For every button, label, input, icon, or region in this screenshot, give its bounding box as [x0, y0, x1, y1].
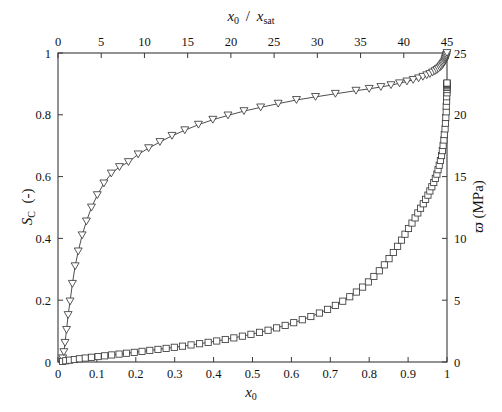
data-marker-square: [347, 294, 353, 300]
data-marker-triangle-down: [71, 263, 79, 270]
data-marker-triangle-down: [87, 204, 95, 211]
data-marker-triangle-down: [181, 127, 189, 134]
data-marker-square: [376, 268, 382, 274]
data-marker-triangle-down: [107, 170, 115, 177]
y2-tick-label: 15: [454, 170, 467, 184]
data-marker-square: [386, 256, 392, 262]
y2-tick-label: 5: [454, 294, 460, 308]
data-marker-square: [395, 243, 401, 249]
data-marker-triangle-down: [145, 145, 153, 152]
top-x-tick-label: 5: [98, 35, 104, 49]
data-marker-triangle-down: [396, 80, 404, 87]
data-marker-triangle-down: [168, 132, 176, 139]
data-marker-square: [299, 317, 305, 323]
data-marker-square: [88, 354, 94, 360]
data-marker-triangle-down: [240, 108, 248, 115]
y-tick-label: 1: [45, 47, 51, 61]
x-tick-label: 0.4: [206, 367, 222, 381]
series-2: [60, 80, 451, 365]
y2-tick-label: 10: [454, 232, 467, 246]
data-marker-square: [282, 322, 288, 328]
top-x-tick-label: 35: [354, 35, 367, 49]
y2-tick-label: 20: [454, 108, 467, 122]
data-marker-square: [171, 344, 177, 350]
data-marker-square: [222, 336, 228, 342]
data-marker-square: [256, 329, 262, 335]
data-marker-triangle-down: [156, 139, 164, 146]
data-marker-square: [109, 352, 115, 358]
data-marker-square: [324, 306, 330, 312]
top-axis-label: x0 / xsat: [0, 8, 502, 26]
data-marker-triangle-down: [124, 159, 132, 166]
data-marker-square: [76, 356, 82, 362]
data-marker-square: [340, 298, 346, 304]
top-x-tick-label: 25: [268, 35, 281, 49]
data-marker-square: [155, 346, 161, 352]
tick-marks: [58, 53, 447, 362]
data-marker-triangle-down: [100, 180, 108, 187]
data-marker-square: [390, 249, 396, 255]
data-marker-square: [205, 339, 211, 345]
x-tick-label: 0.3: [167, 367, 183, 381]
top-x-tick-label: 0: [55, 35, 61, 49]
data-marker-triangle-down: [403, 78, 411, 85]
top-x-tick-label: 10: [138, 35, 151, 49]
data-marker-square: [248, 331, 254, 337]
y-tick-label: 0.8: [35, 108, 51, 122]
data-marker-square: [308, 313, 314, 319]
left-axis-label: SC (-): [19, 157, 37, 257]
data-marker-triangle-down: [93, 192, 101, 199]
y2-tick-label: 25: [454, 47, 467, 61]
data-marker-square: [239, 333, 245, 339]
data-marker-triangle-down: [224, 112, 232, 119]
data-marker-triangle-down: [61, 339, 69, 346]
y-tick-label: 0.4: [35, 232, 51, 246]
data-marker-square: [163, 345, 169, 351]
data-marker-triangle-down: [78, 232, 86, 239]
x-tick-label: 0.5: [245, 367, 261, 381]
data-marker-square: [197, 341, 203, 347]
top-x-tick-label: 15: [181, 35, 194, 49]
data-marker-square: [381, 262, 387, 268]
data-marker-square: [82, 355, 88, 361]
data-series: [59, 50, 451, 365]
data-marker-square: [116, 351, 122, 357]
data-marker-square: [265, 327, 271, 333]
data-marker-triangle-down: [68, 280, 76, 287]
bottom-axis-label: x0: [0, 384, 502, 402]
data-marker-triangle-down: [257, 104, 265, 111]
y-tick-label: 0: [45, 356, 51, 370]
data-marker-square: [332, 302, 338, 308]
data-marker-square: [131, 349, 137, 355]
data-marker-square: [398, 237, 404, 243]
data-marker-triangle-down: [194, 121, 202, 128]
x-tick-label: 0.1: [89, 367, 105, 381]
tick-labels: 00.10.20.30.40.50.60.70.80.9105101520253…: [35, 35, 466, 381]
data-marker-square: [214, 338, 220, 344]
data-marker-square: [274, 325, 280, 331]
data-marker-square: [231, 335, 237, 341]
data-marker-triangle-down: [64, 312, 72, 319]
data-marker-square: [102, 353, 108, 359]
data-marker-triangle-down: [74, 248, 82, 255]
top-x-tick-label: 40: [398, 35, 411, 49]
data-marker-triangle-down: [66, 298, 74, 305]
data-marker-triangle-down: [82, 218, 90, 225]
x-tick-label: 0.8: [361, 367, 377, 381]
data-marker-triangle-down: [387, 82, 395, 89]
figure-container: 00.10.20.30.40.50.60.70.80.9105101520253…: [0, 0, 502, 412]
data-marker-square: [316, 310, 322, 316]
data-marker-square: [353, 289, 359, 295]
top-x-tick-label: 20: [225, 35, 238, 49]
data-marker-square: [123, 350, 129, 356]
y-tick-label: 0.2: [35, 294, 51, 308]
data-marker-square: [291, 320, 297, 326]
x-tick-label: 1: [444, 367, 450, 381]
data-marker-square: [139, 348, 145, 354]
data-marker-square: [188, 342, 194, 348]
x-tick-label: 0.7: [322, 367, 338, 381]
x-tick-label: 0.9: [400, 367, 416, 381]
data-marker-square: [444, 80, 450, 86]
data-marker-triangle-down: [209, 116, 217, 123]
right-axis-label: ϖ (MPa): [470, 157, 487, 257]
